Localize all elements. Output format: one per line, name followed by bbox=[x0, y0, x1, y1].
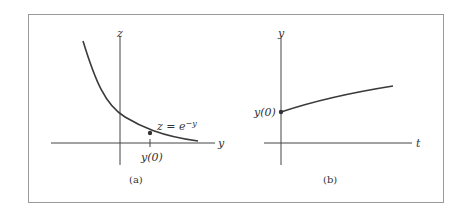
solution-curve bbox=[281, 86, 393, 112]
z-axis-label: z bbox=[116, 27, 123, 40]
y0-tick-label: y(0) bbox=[140, 151, 163, 164]
panel-a: z y z = e−y y(0) (a) bbox=[51, 27, 225, 185]
panel-a-caption: (a) bbox=[129, 174, 143, 185]
panel-b: y t y(0) (b) bbox=[253, 27, 421, 185]
y0-label: y(0) bbox=[253, 106, 276, 119]
y-axis-label: y bbox=[217, 137, 225, 150]
initial-point-dot bbox=[148, 131, 152, 135]
t-axis-label: t bbox=[416, 137, 421, 150]
y-axis-label: y bbox=[277, 27, 285, 40]
start-point-dot bbox=[279, 110, 283, 114]
curve-label: z = e−y bbox=[156, 119, 197, 133]
panel-b-caption: (b) bbox=[323, 174, 337, 185]
figure-frame bbox=[29, 15, 444, 203]
figure: z y z = e−y y(0) (a) y t y(0) (b) bbox=[0, 0, 454, 212]
